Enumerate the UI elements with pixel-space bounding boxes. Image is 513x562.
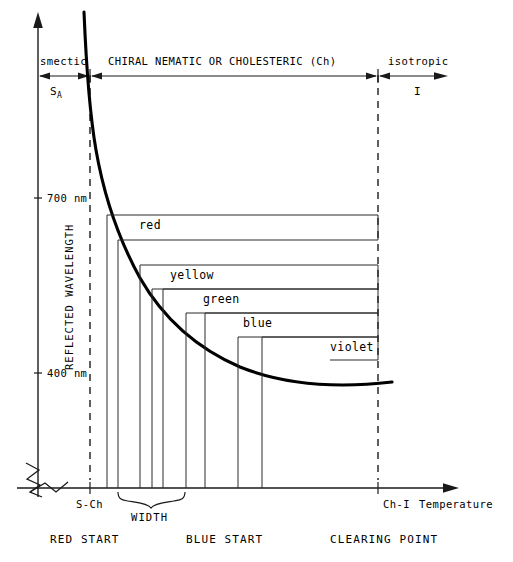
- phase-label-isotropic: isotropic: [388, 56, 449, 67]
- phase-boundary-lines: [90, 75, 378, 480]
- band-label-violet: violet: [330, 342, 374, 354]
- y-axis-title: REFLECTED WAVELENGTH: [64, 224, 75, 370]
- axis-break-zigzag: [26, 463, 68, 497]
- width-brace-label: WIDTH: [131, 512, 168, 523]
- figure-root: smectic SA CHIRAL NEMATIC OR CHOLESTERIC…: [0, 0, 513, 562]
- bottom-caption-red-start: RED START: [50, 534, 120, 545]
- phase-bar-rules: [39, 69, 448, 83]
- band-label-red: red: [139, 220, 161, 232]
- phase-symbol-smectic-sub: A: [57, 91, 62, 100]
- bottom-caption-blue-start: BLUE START: [186, 534, 263, 545]
- band-label-green: green: [203, 294, 240, 306]
- diagram-canvas: [0, 0, 513, 562]
- phase-label-cholesteric: CHIRAL NEMATIC OR CHOLESTERIC (Ch): [108, 56, 337, 67]
- y-tick-label-700: 700 nm: [47, 193, 87, 204]
- color-band-lines: [107, 215, 378, 360]
- band-label-blue: blue: [243, 318, 272, 330]
- x-marker-label-ch-i: Ch-I: [383, 499, 410, 510]
- bottom-caption-clearing-point: CLEARING POINT: [330, 534, 438, 545]
- phase-symbol-smectic-main: S: [50, 85, 57, 98]
- band-label-yellow: yellow: [170, 270, 214, 282]
- phase-label-smectic: smectic: [40, 56, 87, 67]
- phase-symbol-smectic: SA: [50, 86, 62, 100]
- x-axis-title: Temperature: [419, 499, 493, 510]
- y-axis: [33, 12, 43, 497]
- reflected-wavelength-curve: [84, 12, 392, 385]
- phase-symbol-isotropic: I: [414, 86, 421, 97]
- width-brace: [118, 492, 185, 508]
- x-marker-label-s-ch: S-Ch: [76, 499, 103, 510]
